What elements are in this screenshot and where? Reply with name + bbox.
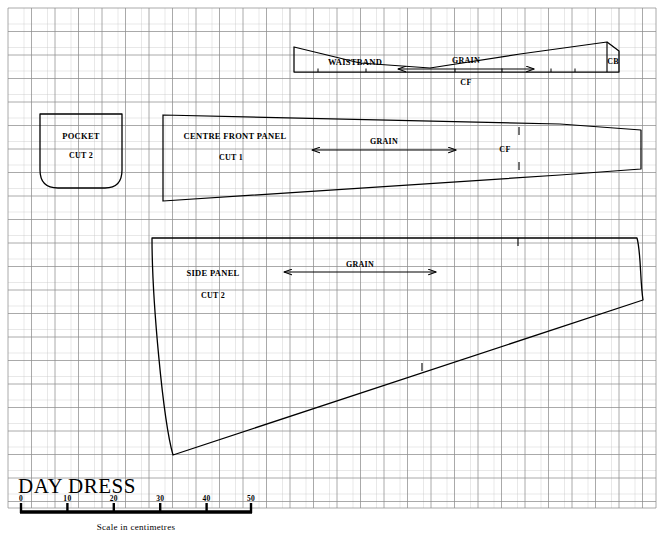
scale-tick-20: 20 (110, 494, 118, 503)
scale-tick-50: 50 (247, 494, 255, 503)
pocket-label: POCKET (62, 131, 100, 141)
side-panel-grain-label: GRAIN (346, 260, 374, 269)
waistband-cf-label: CF (460, 78, 471, 87)
scale-tick-30: 30 (156, 494, 164, 503)
waistband-grain-label: GRAIN (452, 56, 480, 65)
cfp-grain-label: GRAIN (370, 137, 398, 146)
cfp-label: CENTRE FRONT PANEL (184, 131, 287, 141)
waistband-label: WAISTBAND (328, 57, 382, 67)
pattern-sheet: WAISTBAND GRAIN CF CB POCKET CUT 2 CENTR… (0, 0, 663, 536)
scale-caption: Scale in centimetres (97, 522, 175, 532)
cfp-cf-label: CF (499, 145, 510, 154)
grid-minor (8, 8, 656, 508)
scale-tick-40: 40 (203, 494, 211, 503)
side-panel-label: SIDE PANEL (186, 268, 239, 278)
pattern-drawing (0, 0, 663, 536)
page-title: DAY DRESS (18, 474, 136, 499)
side-panel-cut-label: CUT 2 (201, 291, 225, 300)
scale-tick-0: 0 (19, 494, 23, 503)
cfp-cut-label: CUT 1 (219, 153, 243, 162)
scale-tick-10: 10 (63, 494, 71, 503)
pocket-cut-label: CUT 2 (69, 151, 93, 160)
waistband-cb-label: CB (607, 57, 619, 66)
